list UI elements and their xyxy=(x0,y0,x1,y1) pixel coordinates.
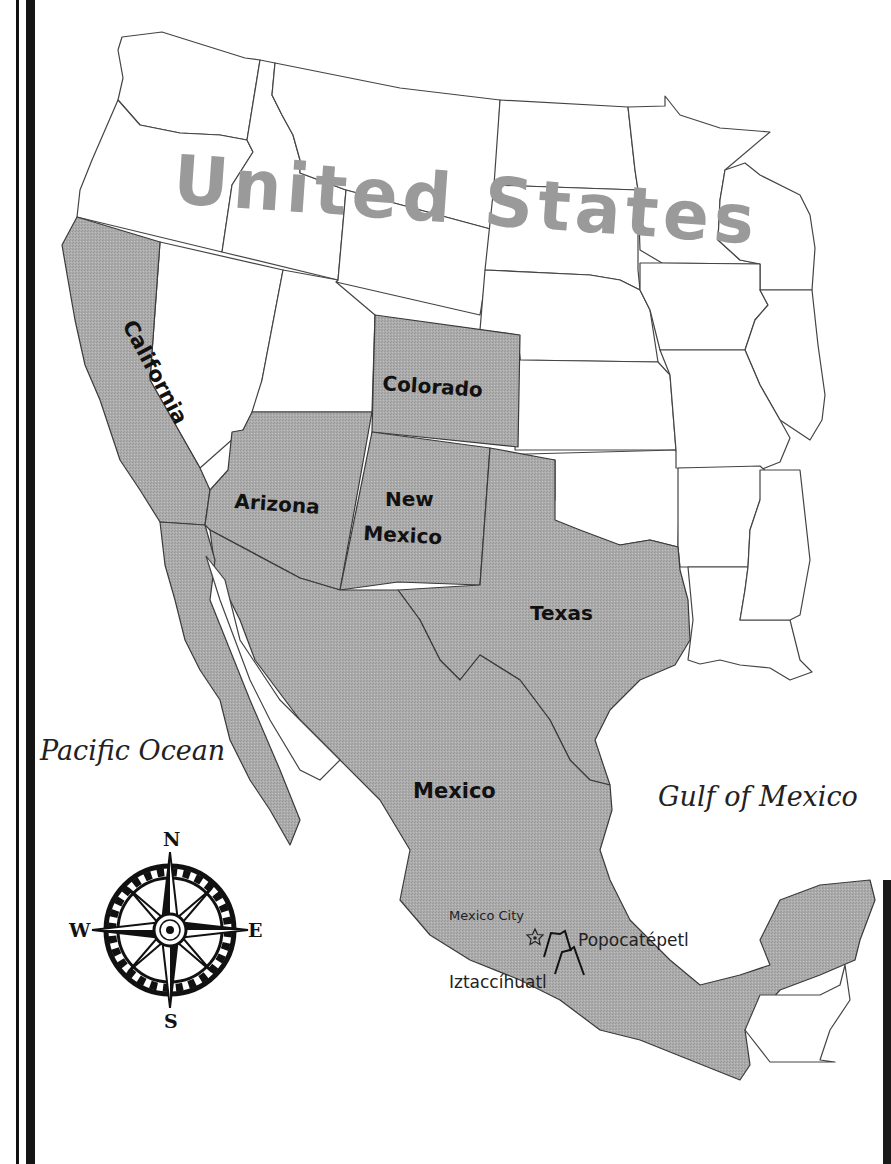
texas-label: Texas xyxy=(530,601,593,625)
compass-north-label: N xyxy=(163,828,180,850)
mexico-country-label: Mexico xyxy=(413,779,496,803)
compass-east-label: E xyxy=(248,919,262,941)
map-canvas: United States California Colorado Arizon… xyxy=(0,0,891,1164)
new-mexico-label-line2: Mexico xyxy=(363,521,443,549)
compass-west-label: W xyxy=(68,919,91,941)
compass-south-label: S xyxy=(164,1010,178,1032)
popocatepetl-label: Popocatépetl xyxy=(578,930,689,950)
new-mexico-label-line1: New xyxy=(385,487,434,511)
pacific-ocean-label: Pacific Ocean xyxy=(39,735,225,766)
mexico-city-label: Mexico City xyxy=(449,908,524,923)
compass-rose-icon: N S E W xyxy=(68,828,262,1032)
iztaccihuatl-label: Iztaccíhuatl xyxy=(449,972,547,992)
gulf-of-mexico-label: Gulf of Mexico xyxy=(658,781,858,812)
